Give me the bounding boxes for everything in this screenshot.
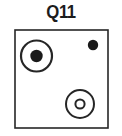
small-filled-dot (88, 40, 98, 50)
large-concentric-circle (21, 41, 52, 72)
lower-ring-circle (66, 90, 94, 118)
large-circle-inner-dot (30, 50, 42, 62)
diagram-canvas (0, 0, 122, 136)
figure-container: Q11 (0, 0, 122, 136)
small-dot-fill (88, 40, 98, 50)
lower-circle-inner-ring (75, 99, 84, 108)
